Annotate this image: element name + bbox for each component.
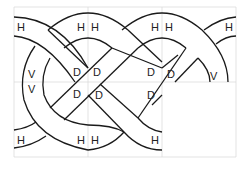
tile-label-d: D — [147, 66, 155, 78]
tile-label-h: H — [151, 134, 159, 146]
tile-label-v: V — [210, 70, 218, 82]
tile-label-d: D — [73, 88, 81, 100]
tile-label-d: D — [147, 89, 155, 101]
tile-label-h: H — [91, 21, 99, 33]
tile-label-h: H — [77, 134, 85, 146]
tile-label-h: H — [165, 21, 173, 33]
knot-strands — [14, 13, 236, 150]
celtic-knot-diagram: HHHHHHVVDDDDDDDVHHHH — [0, 0, 250, 171]
tile-label-v: V — [28, 68, 36, 80]
tile-label-h: H — [17, 134, 25, 146]
tile-label-d: D — [95, 89, 103, 101]
tile-label-d: D — [73, 66, 81, 78]
tile-label-v: V — [28, 83, 36, 95]
grid — [14, 7, 236, 157]
tile-label-h: H — [225, 21, 233, 33]
tile-label-d: D — [167, 68, 175, 80]
tile-label-h: H — [151, 21, 159, 33]
tile-label-h: H — [91, 134, 99, 146]
tile-label-d: D — [93, 66, 101, 78]
tile-labels: HHHHHHVVDDDDDDDVHHHH — [17, 21, 233, 146]
tile-label-h: H — [17, 21, 25, 33]
tile-label-h: H — [77, 21, 85, 33]
